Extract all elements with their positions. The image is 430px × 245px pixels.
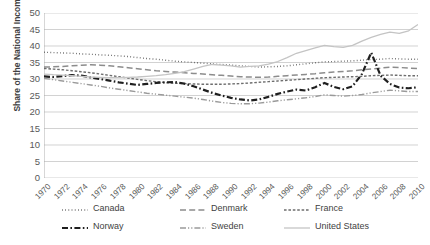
x-tick-label: 1988 <box>202 182 221 201</box>
x-tick-label: 1980 <box>127 182 146 201</box>
x-tick-label: 2008 <box>389 182 408 201</box>
y-tick-label: 45 <box>18 25 40 34</box>
legend-label: France <box>315 203 343 213</box>
legend-swatch-icon <box>180 222 206 230</box>
x-tick-label: 1974 <box>71 182 90 201</box>
x-tick-label: 1994 <box>258 182 277 201</box>
plot-area <box>44 13 418 178</box>
legend-item-united-states[interactable]: United States <box>284 218 369 232</box>
x-tick-label: 1984 <box>164 182 183 201</box>
x-tick-label: 1982 <box>146 182 165 201</box>
legend-label: United States <box>315 221 369 231</box>
x-tick-label: 2006 <box>370 182 389 201</box>
legend-swatch-icon <box>284 204 310 212</box>
legend-label: Sweden <box>211 221 244 231</box>
x-tick-label: 2010 <box>407 182 426 201</box>
plot-svg <box>44 13 418 178</box>
x-tick-label: 1986 <box>183 182 202 201</box>
y-tick-label: 5 <box>18 157 40 166</box>
y-axis-tick-labels: 05101520253035404550 <box>14 0 40 190</box>
series-line-sweden <box>44 78 418 103</box>
x-tick-label: 2000 <box>314 182 333 201</box>
legend-item-canada[interactable]: Canada <box>62 200 125 214</box>
legend-swatch-icon <box>180 204 206 212</box>
x-tick-label: 1978 <box>108 182 127 201</box>
line-chart: Share of the National Income 05101520253… <box>0 0 430 245</box>
y-tick-label: 30 <box>18 74 40 83</box>
x-tick-label: 1992 <box>239 182 258 201</box>
x-tick-label: 1976 <box>89 182 108 201</box>
x-tick-label: 1972 <box>52 182 71 201</box>
x-tick-label: 2002 <box>333 182 352 201</box>
legend-item-france[interactable]: France <box>284 200 343 214</box>
legend-label: Denmark <box>211 203 248 213</box>
x-tick-label: 1990 <box>220 182 239 201</box>
legend-swatch-icon <box>62 222 88 230</box>
y-tick-label: 15 <box>18 124 40 133</box>
x-tick-label: 1996 <box>276 182 295 201</box>
x-tick-label: 2004 <box>351 182 370 201</box>
y-tick-label: 35 <box>18 58 40 67</box>
legend-label: Norway <box>93 221 124 231</box>
y-tick-label: 40 <box>18 41 40 50</box>
legend-swatch-icon <box>284 222 310 230</box>
y-tick-label: 25 <box>18 91 40 100</box>
y-tick-label: 0 <box>18 173 40 182</box>
y-tick-label: 10 <box>18 140 40 149</box>
legend-swatch-icon <box>62 204 88 212</box>
y-tick-label: 50 <box>18 8 40 17</box>
legend-item-sweden[interactable]: Sweden <box>180 218 244 232</box>
legend-item-norway[interactable]: Norway <box>62 218 124 232</box>
legend-label: Canada <box>93 203 125 213</box>
legend-item-denmark[interactable]: Denmark <box>180 200 248 214</box>
chart-legend: CanadaDenmarkFranceNorwaySwedenUnited St… <box>62 200 412 240</box>
y-tick-label: 20 <box>18 107 40 116</box>
x-tick-label: 1998 <box>295 182 314 201</box>
